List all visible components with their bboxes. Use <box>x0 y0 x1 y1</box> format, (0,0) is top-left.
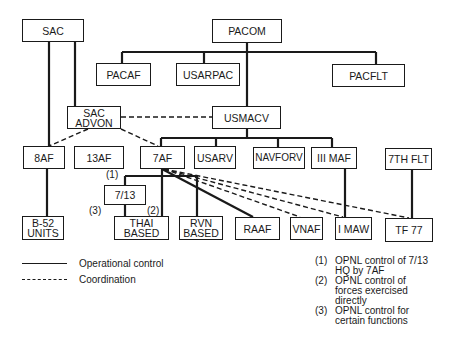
node-pacom: PACOM <box>212 19 282 43</box>
edge-note-2: (2) <box>147 206 159 216</box>
coord-advon-7af <box>121 129 158 146</box>
node-thai-based: THAI BASED <box>114 216 169 240</box>
edge-note-3: (3) <box>89 206 101 216</box>
legend-operational: Operational control <box>22 258 164 269</box>
solid-line-swatch <box>22 263 67 264</box>
legend-label-operational: Operational control <box>79 258 164 269</box>
footnote-number: (2) <box>315 276 335 306</box>
edge-7af-raaf <box>162 169 253 217</box>
legend-label-coordination: Coordination <box>79 274 136 285</box>
org-chart-canvas: SAC PACOM PACAF USARPAC PACFLT SAC ADVON… <box>0 0 455 346</box>
footnote-1: (1) OPNL control of 7/13 HQ by 7AF <box>315 256 428 276</box>
footnote-number: (1) <box>315 256 335 276</box>
node-raaf: RAAF <box>235 217 280 240</box>
coord-7af-imaw <box>164 169 343 217</box>
footnote-2: (2) OPNL control of forces exercised dir… <box>315 276 428 306</box>
coord-advon-8af <box>49 129 88 146</box>
footnote-text: OPNL control for certain functions <box>335 306 409 326</box>
edge-note-1: (1) <box>106 170 118 180</box>
coord-7af-tf77 <box>164 169 409 218</box>
node-usarpac: USARPAC <box>176 63 240 86</box>
node-7-13: 7/13 <box>104 185 146 205</box>
node-b52-units: B-52 UNITS <box>22 216 64 240</box>
node-vnaf: VNAF <box>290 217 323 240</box>
footnotes: (1) OPNL control of 7/13 HQ by 7AF (2) O… <box>315 256 428 326</box>
footnote-3: (3) OPNL control for certain functions <box>315 306 428 326</box>
node-rvn-based: RVN BASED <box>179 216 223 240</box>
node-usarv: USARV <box>194 146 236 169</box>
node-pacaf: PACAF <box>96 63 151 86</box>
footnote-number: (3) <box>315 306 335 326</box>
node-usmacv: USMACV <box>212 106 281 129</box>
footnote-text: OPNL control of 7/13 HQ by 7AF <box>335 256 428 276</box>
node-navforv: NAVFORV <box>253 147 305 169</box>
legend-coordination: Coordination <box>22 274 136 285</box>
node-8af: 8AF <box>23 146 65 169</box>
node-iii-maf: III MAF <box>311 147 357 169</box>
node-7th-flt: 7TH FLT <box>385 148 432 170</box>
footnote-text: OPNL control of forces exercised directl… <box>335 276 408 306</box>
node-i-maw: I MAW <box>335 217 372 240</box>
node-7af: 7AF <box>140 146 185 169</box>
node-pacflt: PACFLT <box>332 64 405 87</box>
node-sac: SAC <box>22 19 84 42</box>
node-tf77: TF 77 <box>385 218 433 242</box>
node-sac-advon: SAC ADVON <box>67 106 121 129</box>
dashed-line-swatch <box>22 279 67 280</box>
node-13af: 13AF <box>74 146 124 169</box>
